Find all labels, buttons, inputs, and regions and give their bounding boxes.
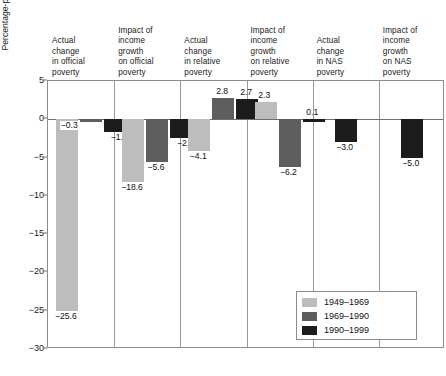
bar-col1-series2 <box>80 119 102 122</box>
bar-value-label: −25.6 <box>55 312 77 321</box>
column-header-4: Impact ofincomegrowthon relativepoverty <box>251 26 290 78</box>
bar-col3-series2 <box>212 98 234 119</box>
column-header-line: change <box>317 47 345 57</box>
bar-col4-series1 <box>255 102 277 120</box>
column-header-3: Actualchangein relativepoverty <box>184 36 220 78</box>
bar-value-label: 0.1 <box>306 108 318 117</box>
column-header-line: Impact of <box>251 26 290 36</box>
legend-swatch-icon <box>302 312 317 321</box>
legend-label: 1990–1999 <box>324 326 369 335</box>
bar-col5-series3 <box>335 119 357 142</box>
column-header-line: in official <box>52 57 85 67</box>
column-header-line: poverty <box>251 68 290 78</box>
bar-col4-series3 <box>303 119 325 122</box>
bar-col2-series2 <box>146 119 168 162</box>
column-header-line: poverty <box>383 68 418 78</box>
column-header-line: change <box>184 47 220 57</box>
column-header-1: Actualchangein officialpoverty <box>52 36 85 78</box>
legend-item: 1949–1969 <box>302 296 411 309</box>
legend-swatch-icon <box>302 298 317 307</box>
y-tick-label: −10 <box>29 190 44 199</box>
bar-value-label: −4.1 <box>190 152 207 161</box>
column-header-6: Impact ofincomegrowthon NASpoverty <box>383 26 418 78</box>
legend: 1949–1969 1969–1990 1990–1999 <box>296 291 417 340</box>
column-header-line: on official <box>118 57 154 67</box>
bar-value-label: −18.6 <box>121 183 143 192</box>
column-header-line: income <box>118 36 154 46</box>
bar-value-label: 2.7 <box>240 88 252 97</box>
bar-col6-series3 <box>401 119 423 157</box>
column-header-line: income <box>251 36 290 46</box>
y-tick-label: −25 <box>29 305 44 314</box>
column-header-line: Impact of <box>383 26 418 36</box>
column-divider <box>247 81 248 347</box>
legend-item: 1969–1990 <box>302 310 411 323</box>
column-header-line: on relative <box>251 57 290 67</box>
column-header-line: on NAS <box>383 57 418 67</box>
column-header-line: Actual <box>317 36 345 46</box>
bar-value-label: 2.3 <box>258 91 270 100</box>
bar-col1-series1 <box>56 119 78 311</box>
bar-value-label: −3.0 <box>336 143 353 152</box>
bar-col4-series2 <box>279 119 301 166</box>
bar-value-label: −5.0 <box>402 159 419 168</box>
bar-chart: Actualchangein officialpovertyImpact ofi… <box>0 0 446 376</box>
y-tick-label: −20 <box>29 267 44 276</box>
column-header-line: poverty <box>118 68 154 78</box>
column-header-line: Impact of <box>118 26 154 36</box>
column-header-line: growth <box>251 47 290 57</box>
column-header-5: Actualchangein NASpoverty <box>317 36 345 78</box>
y-tick-label: −30 <box>29 344 44 353</box>
bar-value-label: 2.8 <box>216 87 228 96</box>
bar-col2-series1 <box>122 119 144 181</box>
column-header-line: poverty <box>52 68 85 78</box>
column-header-line: Actual <box>184 36 220 46</box>
bar-value-label: −6.2 <box>280 168 297 177</box>
column-header-line: poverty <box>317 68 345 78</box>
y-axis: 50−5−10−15−20−25−30 <box>0 80 47 348</box>
legend-swatch-icon <box>302 326 317 335</box>
column-header-line: poverty <box>184 68 220 78</box>
bar-value-label: −0.3 <box>60 121 79 130</box>
legend-label: 1949–1969 <box>324 298 369 307</box>
bar-value-label: −5.6 <box>148 163 165 172</box>
column-header-line: in relative <box>184 57 220 67</box>
column-header-line: change <box>52 47 85 57</box>
column-header-line: growth <box>118 47 154 57</box>
bar-col3-series1 <box>188 119 210 150</box>
column-header-2: Impact ofincomegrowthon officialpoverty <box>118 26 154 78</box>
legend-label: 1969–1990 <box>324 312 369 321</box>
y-tick-label: −15 <box>29 229 44 238</box>
column-header-line: growth <box>383 47 418 57</box>
column-header-line: in NAS <box>317 57 345 67</box>
column-header-line: income <box>383 36 418 46</box>
column-headers: Actualchangein officialpovertyImpact ofi… <box>47 2 444 80</box>
legend-item: 1990–1999 <box>302 324 411 337</box>
column-header-line: Actual <box>52 36 85 46</box>
